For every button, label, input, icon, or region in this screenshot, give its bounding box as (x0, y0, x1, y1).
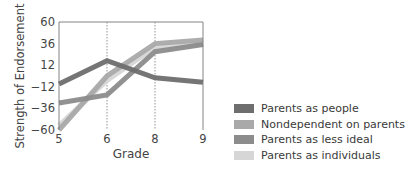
x-tick-label: 6 (103, 132, 110, 146)
x-tick-label: 9 (199, 132, 206, 146)
x-tick-label: 5 (55, 132, 62, 146)
legend-label: Parents as less ideal (261, 133, 373, 146)
y-axis-label: Strength of Endorsement (13, 3, 27, 148)
y-axis-tick-labels: 603612−12−36−60 (31, 15, 55, 137)
legend-item-parents-as-people: Parents as people (234, 101, 405, 117)
legend-swatch (234, 151, 254, 160)
legend-item-parents-as-individuals: Parents as individuals (234, 148, 405, 164)
series-line-nondependent-on-parents (59, 40, 203, 130)
y-tick-label: −36 (31, 101, 55, 115)
x-axis-label: Grade (113, 147, 150, 161)
y-tick-label: −12 (31, 80, 55, 94)
legend-item-nondependent-on-parents: Nondependent on parents (234, 117, 405, 133)
legend-swatch (234, 135, 254, 144)
legend-swatch (234, 120, 254, 129)
y-tick-label: 12 (40, 58, 55, 72)
legend-label: Nondependent on parents (261, 118, 405, 131)
chart-legend: Parents as people Nondependent on parent… (234, 101, 405, 163)
x-tick-label: 8 (151, 132, 158, 146)
line-chart: 603612−12−36−60 5689 Grade Strength of E… (0, 0, 230, 178)
series-lines (59, 40, 203, 130)
y-tick-label: −60 (31, 123, 55, 137)
y-tick-label: 36 (40, 37, 55, 51)
legend-label: Parents as individuals (261, 149, 381, 162)
legend-swatch (234, 104, 254, 113)
series-line-parents-as-individuals (59, 44, 203, 126)
legend-item-parents-as-less-ideal: Parents as less ideal (234, 132, 405, 148)
y-tick-label: 60 (40, 15, 55, 29)
x-axis-tick-labels: 5689 (55, 132, 206, 146)
legend-label: Parents as people (261, 102, 359, 115)
